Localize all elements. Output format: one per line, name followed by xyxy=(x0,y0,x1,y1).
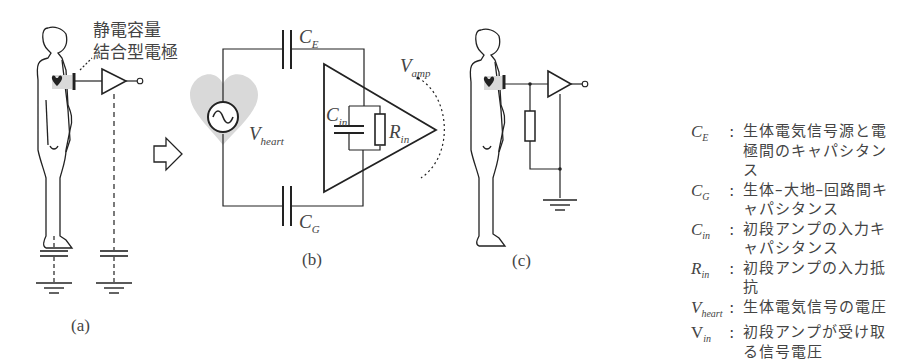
resistor-rin-icon xyxy=(375,114,385,145)
label-cin: Cin xyxy=(326,104,348,128)
capacitor-cg-icon xyxy=(283,186,291,226)
output-terminal-c xyxy=(582,81,588,87)
capacitor-ce-icon xyxy=(283,30,291,69)
resistor-icon-c xyxy=(525,111,535,141)
legend-item-vheart: Vheart : 生体電気信号の電圧 xyxy=(691,298,897,324)
symbol-legend: CE : 生体電気信号源と電極間のキャパシタンス CG : 生体–大地–回路間キ… xyxy=(691,122,897,362)
label-ce: CE xyxy=(299,26,319,50)
circuit-ground-capacitor-icon xyxy=(96,251,132,293)
legend-item-rin: Rin : 初段アンプの入力抵抗 xyxy=(691,259,897,298)
body-ground-capacitor-icon xyxy=(36,251,72,293)
electrode-label-line1: 静電容量 xyxy=(93,20,161,40)
legend-item-cg: CG : 生体–大地–回路間キャパシタンス xyxy=(691,181,897,220)
human-figure-icon-c xyxy=(470,29,505,246)
label-cg: CG xyxy=(299,211,320,235)
human-figure-icon xyxy=(37,27,72,248)
caption-c: (c) xyxy=(512,251,531,270)
caption-b: (b) xyxy=(302,250,322,269)
label-vamp: Vamp xyxy=(400,55,431,79)
legend-item-cin: Cin : 初段アンプの入力キャパシタンス xyxy=(691,220,897,259)
label-rin: Rin xyxy=(388,121,410,145)
caption-a: (a) xyxy=(71,316,90,335)
amplifier-icon xyxy=(102,69,126,94)
panel-a: 静電容量 結合型電極 (a) xyxy=(36,20,178,335)
ground-icon-c xyxy=(543,200,577,210)
output-terminal xyxy=(137,78,143,84)
electrode-label-line2: 結合型電極 xyxy=(93,42,178,62)
arrow-right-icon xyxy=(154,138,182,170)
panel-b: CE CG Cin Rin Vheart Vamp (b) xyxy=(190,26,444,269)
label-vheart: Vheart xyxy=(249,123,285,147)
legend-item-vin: Vin : 初段アンプが受け取る信号電圧 xyxy=(691,323,897,362)
amplifier-icon-c xyxy=(548,71,571,97)
panel-c: (c) xyxy=(470,29,587,270)
legend-item-ce: CE : 生体電気信号源と電極間のキャパシタンス xyxy=(691,122,897,181)
